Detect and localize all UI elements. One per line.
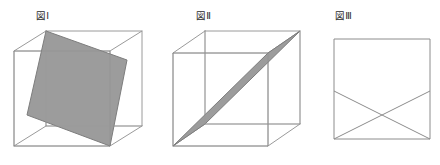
figure-board: 図Ⅰ 図Ⅱ 図Ⅲ — [0, 0, 440, 165]
figure-3-square — [334, 39, 430, 139]
figure-3-drawing — [0, 0, 440, 165]
